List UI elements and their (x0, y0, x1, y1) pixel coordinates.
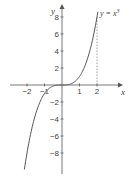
function-label-exponent: 3 (116, 8, 120, 14)
y-axis-arrow-icon (60, 4, 65, 9)
cubic-curve (24, 12, 97, 170)
x-tick-label: 1 (77, 87, 82, 96)
y-tick-label: −4 (50, 115, 60, 124)
y-axis-label: y (50, 6, 55, 16)
x-tick-label: −2 (22, 87, 32, 96)
cubic-function-chart: −2−1128642−2−4−6−8 x y y = x3 (0, 0, 129, 177)
x-tick-label: −1 (40, 87, 50, 96)
x-tick-label: 2 (95, 87, 100, 96)
y-tick-label: −8 (50, 149, 60, 158)
plot-area: −2−1128642−2−4−6−8 x y y = x3 (0, 0, 129, 177)
function-label-base: y = x (99, 9, 117, 18)
y-tick-label: 4 (55, 47, 60, 56)
y-tick-label: −6 (50, 132, 60, 141)
y-tick-label: 6 (55, 30, 60, 39)
function-label: y = x3 (99, 8, 120, 18)
y-tick-label: 8 (55, 13, 60, 22)
y-tick-label: 2 (55, 64, 60, 73)
x-axis-label: x (120, 87, 125, 97)
y-tick-label: −2 (50, 98, 60, 107)
